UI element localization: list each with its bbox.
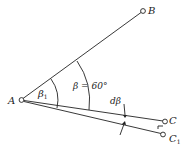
label-A: A [7,95,15,106]
label-beta-60: β = 60° [72,81,107,91]
point-C [163,119,168,124]
point-A [19,98,24,103]
label-dbeta: dβ [110,96,121,106]
point-C1 [161,132,166,137]
label-beta1: β1 [37,88,48,100]
diagram-svg: A B C C1 β1 β = 60° dβ [0,0,187,153]
dbeta-arrow-bottom [120,124,124,135]
diagram-canvas: A B C C1 β1 β = 60° dβ [0,0,187,153]
dbeta-arrow-top [124,104,125,115]
dbeta-arrowhead-top [123,115,127,118]
right-angle-marker [158,126,163,129]
label-B: B [147,5,155,16]
label-C: C [169,115,177,126]
label-C1: C1 [169,133,180,145]
point-B [141,9,146,14]
arc-beta1 [51,79,58,108]
